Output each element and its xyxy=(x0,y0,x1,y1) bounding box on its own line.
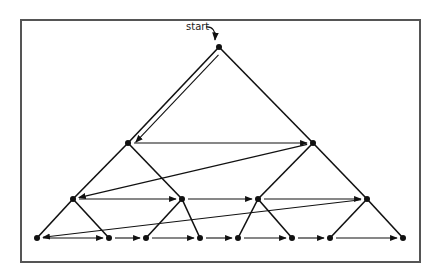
tree-edge xyxy=(238,199,258,238)
tree-edge xyxy=(37,199,73,238)
tree-edge xyxy=(219,47,313,143)
tree-node xyxy=(125,140,131,146)
tree-node xyxy=(179,196,185,202)
tree-edge xyxy=(313,143,367,199)
tree-node xyxy=(255,196,261,202)
tree-diagram xyxy=(0,0,439,276)
tree-node xyxy=(400,235,406,241)
tree-edge xyxy=(73,143,128,199)
tree-node xyxy=(216,44,222,50)
tree-edge xyxy=(258,143,313,199)
tree-edge xyxy=(182,199,200,238)
traversal-arrow xyxy=(136,55,219,142)
tree-node xyxy=(34,235,40,241)
tree-edge xyxy=(128,143,182,199)
tree-node xyxy=(364,196,370,202)
tree-edge xyxy=(128,47,219,143)
tree-edge xyxy=(258,199,292,238)
tree-edge xyxy=(367,199,403,238)
tree-node xyxy=(106,235,112,241)
tree-node xyxy=(235,235,241,241)
tree-node xyxy=(143,235,149,241)
tree-node xyxy=(327,235,333,241)
tree-node xyxy=(197,235,203,241)
traversal-arrow xyxy=(79,144,307,197)
tree-node xyxy=(70,196,76,202)
tree-edge xyxy=(146,199,182,238)
start-pointer-arrow xyxy=(206,27,215,40)
tree-edge xyxy=(330,199,367,238)
tree-node xyxy=(310,140,316,146)
tree-node xyxy=(289,235,295,241)
